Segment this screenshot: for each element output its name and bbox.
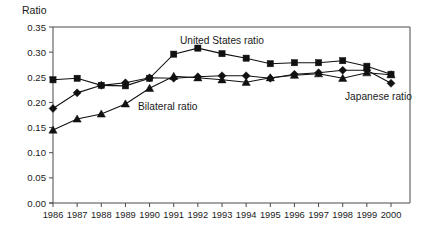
- x-tick-label: 1987: [67, 210, 88, 220]
- data-point-marker: [243, 55, 249, 61]
- y-axis-title: Ratio: [22, 4, 47, 16]
- x-tick-label: 1993: [212, 210, 233, 220]
- y-tick-label: 0.20: [27, 97, 46, 108]
- x-tick-label: 1996: [284, 210, 305, 220]
- x-tick-label: 1989: [115, 210, 136, 220]
- y-tick-label: 0.05: [27, 172, 46, 183]
- data-point-marker: [340, 58, 346, 64]
- x-tick-label: 1995: [260, 210, 281, 220]
- y-tick-label: 0.15: [27, 122, 46, 133]
- data-point-marker: [50, 77, 56, 83]
- chart-container: Ratio 0.000.050.100.150.200.250.300.35 1…: [0, 0, 430, 231]
- x-tick-label: 1986: [43, 210, 64, 220]
- data-point-marker: [74, 75, 80, 81]
- x-tick-label: 1990: [139, 210, 160, 220]
- data-point-marker: [315, 60, 321, 66]
- series-annotation-label: Japanese ratio: [345, 91, 412, 102]
- x-tick-label: 2000: [381, 210, 402, 220]
- series-annotation-label: United States ratio: [180, 35, 264, 46]
- y-tick-label: 0.30: [27, 47, 46, 58]
- y-tick-label: 0.35: [27, 22, 46, 33]
- x-tick-label: 1991: [163, 210, 184, 220]
- data-point-marker: [291, 60, 297, 66]
- line-chart: Ratio 0.000.050.100.150.200.250.300.35 1…: [0, 0, 430, 231]
- series-annotation-label: Bilateral ratio: [138, 101, 198, 112]
- data-point-marker: [267, 61, 273, 67]
- y-tick-label: 0.25: [27, 72, 46, 83]
- y-tick-label: 0.00: [27, 198, 46, 209]
- x-tick-label: 1997: [308, 210, 329, 220]
- y-tick-label: 0.10: [27, 147, 46, 158]
- data-point-marker: [219, 51, 225, 57]
- x-tick-label: 1992: [188, 210, 209, 220]
- x-tick-label: 1988: [91, 210, 112, 220]
- data-point-marker: [171, 51, 177, 57]
- x-tick-label: 1999: [357, 210, 378, 220]
- x-tick-label: 1994: [236, 210, 257, 220]
- x-tick-label: 1998: [332, 210, 353, 220]
